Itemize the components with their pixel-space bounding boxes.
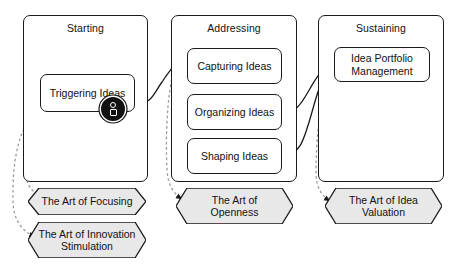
activity-box-shaping-ideas[interactable]: Shaping Ideas (187, 138, 282, 174)
activity-box-capturing-ideas[interactable]: Capturing Ideas (187, 48, 282, 84)
art-label-art-of-innovation-stimulation: The Art of Innovation Stimulation (28, 222, 146, 258)
phase-title-starting: Starting (24, 22, 147, 34)
activity-box-idea-portfolio-management[interactable]: Idea Portfolio Management (334, 47, 430, 82)
art-banner-art-of-openness[interactable]: The Art of Openness (176, 188, 293, 224)
art-label-art-of-focusing: The Art of Focusing (28, 188, 146, 215)
art-banner-art-of-innovation-stimulation[interactable]: The Art of Innovation Stimulation (28, 222, 146, 258)
person-icon-head (110, 102, 116, 108)
phase-title-sustaining: Sustaining (319, 22, 443, 34)
art-label-art-of-openness: The Art of Openness (176, 188, 293, 224)
diagram-canvas: Starting Triggering Ideas Addressing Cap… (0, 0, 456, 276)
phase-column-sustaining[interactable]: Sustaining (318, 15, 444, 182)
person-icon-body (110, 109, 117, 116)
person-icon (101, 97, 125, 121)
phase-title-addressing: Addressing (172, 22, 296, 34)
activity-label-organizing-ideas: Organizing Ideas (195, 106, 274, 119)
activity-box-organizing-ideas[interactable]: Organizing Ideas (187, 94, 282, 130)
activity-label-idea-portfolio-management: Idea Portfolio Management (351, 52, 413, 77)
activity-label-shaping-ideas: Shaping Ideas (201, 150, 268, 163)
art-banner-art-of-focusing[interactable]: The Art of Focusing (28, 188, 146, 215)
art-banner-art-of-idea-valuation[interactable]: The Art of Idea Valuation (325, 188, 442, 224)
activity-label-capturing-ideas: Capturing Ideas (197, 60, 271, 73)
art-label-art-of-idea-valuation: The Art of Idea Valuation (325, 188, 442, 224)
